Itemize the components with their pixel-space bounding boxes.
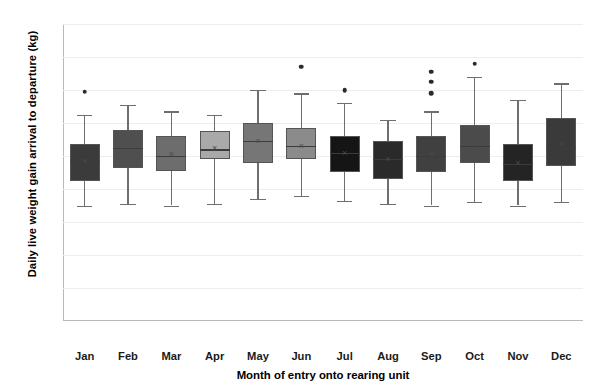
mean-marker: ×	[82, 156, 87, 165]
box-plot-jul: ×	[323, 24, 366, 321]
whisker-cap-upper	[120, 105, 136, 106]
box-plot-dec: ×	[540, 24, 583, 321]
whisker-cap-upper	[424, 111, 440, 112]
outlier-point	[82, 89, 87, 94]
box-plot-jan: ×	[63, 24, 106, 321]
mean-marker: ×	[385, 155, 390, 164]
outlier-point	[429, 79, 434, 84]
whisker-cap-lower	[120, 204, 136, 205]
whisker-cap-upper	[250, 90, 266, 91]
x-tick-label-may: May	[247, 350, 269, 362]
outlier-point	[342, 88, 347, 93]
x-tick-label-dec: Dec	[551, 350, 572, 362]
box-plot-feb: ×	[106, 24, 149, 321]
box-plot-nov: ×	[496, 24, 539, 321]
x-tick-label-aug: Aug	[377, 350, 399, 362]
y-axis-title: Daily live weight gain arrival to depart…	[26, 4, 38, 304]
x-tick-label-nov: Nov	[507, 350, 528, 362]
outlier-point	[299, 65, 304, 70]
whisker-cap-lower	[207, 204, 223, 205]
mean-marker: ×	[342, 148, 347, 157]
x-tick-label-feb: Feb	[118, 350, 138, 362]
box-plot-jun: ×	[280, 24, 323, 321]
whisker-cap-lower	[164, 206, 180, 207]
mean-marker: ×	[212, 143, 217, 152]
whisker-cap-lower	[424, 206, 440, 207]
whisker-cap-upper	[207, 115, 223, 116]
whisker-cap-upper	[77, 115, 93, 116]
mean-marker: ×	[429, 150, 434, 159]
whisker-cap-upper	[164, 111, 180, 112]
whisker-cap-upper	[554, 83, 570, 84]
figure-caption	[22, 362, 585, 373]
whisker-cap-upper	[510, 100, 526, 101]
box-plot-sep: ×	[410, 24, 453, 321]
mean-marker: ×	[255, 137, 260, 146]
x-tick-label-apr: Apr	[205, 350, 224, 362]
x-tick-label-jul: Jul	[337, 350, 353, 362]
box-plot-aug: ×	[366, 24, 409, 321]
outlier-point	[472, 61, 477, 66]
mean-marker: ×	[169, 150, 174, 159]
box-plot-may: ×	[236, 24, 279, 321]
whisker-cap-lower	[380, 204, 396, 205]
whisker-cap-lower	[77, 206, 93, 207]
x-tick-label-jan: Jan	[75, 350, 94, 362]
outlier-point	[429, 70, 434, 75]
mean-marker: ×	[299, 142, 304, 151]
mean-marker: ×	[472, 140, 477, 149]
whisker-cap-lower	[467, 202, 483, 203]
box-plot-apr: ×	[193, 24, 236, 321]
whisker-cap-lower	[337, 201, 353, 202]
whisker-line	[214, 115, 215, 204]
whisker-cap-upper	[467, 77, 483, 78]
plot-area: 00.20.40.60.811.21.41.61.8 ×××××××××××× …	[63, 24, 583, 321]
whisker-cap-lower	[250, 199, 266, 200]
whisker-cap-lower	[510, 206, 526, 207]
x-tick-label-oct: Oct	[465, 350, 484, 362]
box-plot-oct: ×	[453, 24, 496, 321]
mean-marker: ×	[125, 145, 130, 154]
mean-marker: ×	[515, 158, 520, 167]
whisker-cap-lower	[554, 202, 570, 203]
whisker-cap-upper	[380, 120, 396, 121]
x-tick-label-sep: Sep	[421, 350, 442, 362]
outlier-point	[429, 91, 434, 96]
x-tick-label-mar: Mar	[161, 350, 181, 362]
mean-marker: ×	[559, 140, 564, 149]
whisker-cap-upper	[294, 93, 310, 94]
x-tick-label-jun: Jun	[291, 350, 311, 362]
box-plot-mar: ×	[150, 24, 193, 321]
whisker-cap-upper	[337, 103, 353, 104]
whisker-cap-lower	[294, 196, 310, 197]
